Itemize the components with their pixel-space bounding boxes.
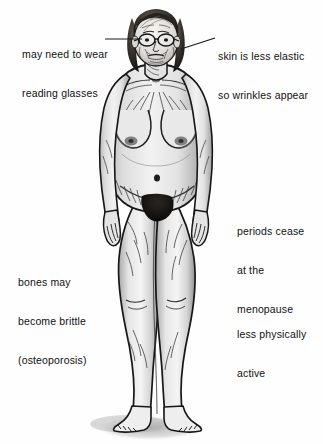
annotation-line: (osteoporosis): [18, 354, 87, 367]
annotation-line: periods cease: [237, 225, 304, 238]
annotation-reading-glasses: may need to wear reading glasses: [22, 22, 108, 126]
annotation-line: bones may: [18, 276, 87, 289]
leader-line-skin: [181, 38, 215, 49]
annotation-skin-elasticity: skin is less elastic so wrinkles appear: [218, 24, 308, 128]
annotation-line: at the: [237, 264, 304, 277]
annotation-line: reading glasses: [22, 87, 108, 100]
annotation-line: skin is less elastic: [218, 50, 308, 63]
legs: [118, 196, 195, 416]
annotation-line: active: [237, 367, 306, 380]
annotation-line: may need to wear: [22, 48, 108, 61]
annotation-line: so wrinkles appear: [218, 89, 308, 102]
annotation-physical-activity: less physically active: [237, 302, 306, 406]
annotation-line: become brittle: [18, 315, 87, 328]
annotation-osteoporosis: bones may become brittle (osteoporosis): [18, 250, 87, 393]
ageing-female-diagram: may need to wear reading glasses skin is…: [0, 0, 323, 444]
head: [127, 9, 185, 72]
annotation-line: less physically: [237, 328, 306, 341]
